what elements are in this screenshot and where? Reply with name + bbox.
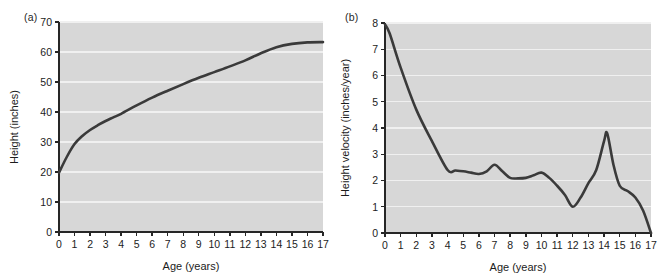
x-tick-label: 0 (56, 238, 62, 250)
y-tick-label: 3 (372, 148, 378, 160)
x-tick-label: 12 (567, 239, 579, 251)
y-tick-label: 1 (372, 201, 378, 213)
x-axis-title: Age (years) (490, 261, 547, 273)
panel-b-plot: 01234567801234567891011121314151617Age (… (335, 0, 669, 280)
x-tick-label: 8 (507, 239, 513, 251)
x-tick-label: 13 (583, 239, 595, 251)
x-tick-label: 3 (103, 238, 109, 250)
y-tick-label: 0 (372, 227, 378, 239)
y-tick-label: 30 (40, 136, 52, 148)
x-tick-label: 5 (134, 238, 140, 250)
panel-a-plot: 0102030405060700123456789101112131415161… (0, 0, 335, 280)
y-axis-title: Height velocity (inches/year) (339, 59, 351, 197)
x-tick-label: 12 (240, 238, 252, 250)
x-tick-label: 16 (302, 238, 314, 250)
x-tick-label: 11 (552, 239, 563, 251)
x-tick-label: 1 (398, 239, 404, 251)
x-tick-label: 9 (523, 239, 529, 251)
x-tick-label: 7 (165, 238, 171, 250)
x-tick-label: 10 (208, 238, 220, 250)
x-tick-label: 8 (180, 238, 186, 250)
y-tick-label: 10 (40, 196, 52, 208)
y-tick-label: 0 (46, 226, 52, 238)
y-tick-label: 5 (372, 96, 378, 108)
growth-charts-figure: (a) 010203040506070012345678910111213141… (0, 0, 669, 280)
x-tick-label: 9 (196, 238, 202, 250)
y-tick-label: 70 (40, 16, 52, 28)
x-tick-label: 2 (87, 238, 93, 250)
x-tick-label: 17 (645, 239, 657, 251)
x-tick-label: 11 (224, 238, 235, 250)
y-tick-label: 4 (372, 122, 378, 134)
x-tick-label: 10 (536, 239, 548, 251)
x-tick-label: 15 (614, 239, 626, 251)
y-tick-label: 60 (40, 46, 52, 58)
panel-b-velocity-chart: (b) 01234567801234567891011121314151617A… (335, 0, 669, 280)
x-axis-title: Age (years) (163, 260, 220, 272)
x-tick-label: 3 (429, 239, 435, 251)
y-tick-label: 50 (40, 76, 52, 88)
x-tick-label: 2 (413, 239, 419, 251)
y-tick-label: 6 (372, 69, 378, 81)
y-tick-label: 40 (40, 106, 52, 118)
x-tick-label: 5 (460, 239, 466, 251)
x-tick-label: 0 (382, 239, 388, 251)
x-tick-label: 6 (149, 238, 155, 250)
x-tick-label: 14 (271, 238, 283, 250)
x-tick-label: 6 (476, 239, 482, 251)
x-tick-label: 17 (317, 238, 329, 250)
x-tick-label: 16 (630, 239, 642, 251)
x-tick-label: 13 (255, 238, 267, 250)
x-tick-label: 4 (445, 239, 451, 251)
y-tick-label: 20 (40, 166, 52, 178)
y-tick-label: 2 (372, 174, 378, 186)
x-tick-label: 15 (286, 238, 298, 250)
panel-a-height-chart: (a) 010203040506070012345678910111213141… (0, 0, 335, 280)
x-tick-label: 14 (598, 239, 610, 251)
y-axis-title: Height (inches) (8, 90, 20, 164)
x-tick-label: 1 (72, 238, 78, 250)
y-tick-label: 8 (372, 17, 378, 29)
x-tick-label: 7 (492, 239, 498, 251)
x-tick-label: 4 (118, 238, 124, 250)
y-tick-label: 7 (372, 43, 378, 55)
